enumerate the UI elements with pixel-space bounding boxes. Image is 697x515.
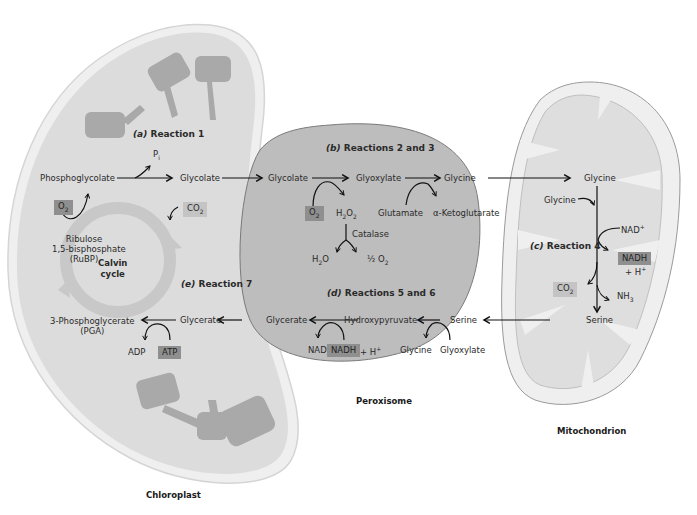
- mitochondrion-label: Mitochondrion: [557, 426, 626, 436]
- nh3-label: NH3: [617, 292, 634, 303]
- glyoxylate-label-2: Glyoxylate: [440, 346, 485, 355]
- glycerate-label-chloroplast: Glycerate: [180, 316, 221, 325]
- atp-badge: ATP: [158, 346, 181, 359]
- co2-badge-chloroplast: CO2: [183, 202, 207, 217]
- ketoglutarate-label: α-Ketoglutarate: [433, 209, 500, 218]
- glycine-label-peroxisome: Glycine: [444, 174, 476, 183]
- h-plus-label-mito: + H+: [625, 266, 646, 276]
- calvin-cycle-label: Calvincycle: [98, 258, 127, 279]
- glycine-label-mito-top: Glycine: [584, 174, 616, 183]
- nadh-badge-peroxisome: NADH: [327, 344, 360, 357]
- pi-label: Pi: [153, 150, 160, 161]
- hydroxypyruvate-label: Hydroxypyruvate: [344, 316, 417, 325]
- nad-plus-label: NAD+: [621, 224, 645, 234]
- glycolate-label-peroxisome: Glycolate: [268, 174, 308, 183]
- serine-label-mito: Serine: [586, 316, 613, 325]
- h2o-label: H2O: [312, 255, 329, 266]
- glyoxylate-label: Glyoxylate: [356, 174, 401, 183]
- reaction-d-title: (d) Reactions 5 and 6: [327, 289, 435, 298]
- pga-label: 3-Phosphoglycerate(PGA): [50, 316, 135, 336]
- reaction-c-title: (c) Reaction 4: [530, 242, 601, 251]
- h-plus-label-peroxisome: + H+: [360, 346, 381, 356]
- glycerate-label-peroxisome: Glycerate: [266, 316, 307, 325]
- chloroplast-label: Chloroplast: [146, 490, 201, 500]
- reaction-a-title: (a) Reaction 1: [133, 130, 204, 139]
- h2o2-label: H2O2: [336, 209, 357, 220]
- peroxisome-label: Peroxisome: [356, 396, 412, 406]
- reaction-b-title: (b) Reactions 2 and 3: [326, 144, 434, 153]
- glycine-label-mito-in: Glycine: [544, 196, 576, 205]
- adp-label: ADP: [128, 348, 146, 357]
- glycolate-label-chloroplast: Glycolate: [180, 174, 220, 183]
- o2-badge-peroxisome: O2: [305, 206, 324, 221]
- phosphoglycolate-label: Phosphoglycolate: [40, 174, 115, 183]
- catalase-label: Catalase: [352, 230, 389, 239]
- glycine-label-peroxisome-2: Glycine: [400, 346, 432, 355]
- nad-label: NAD: [308, 346, 327, 355]
- nadh-badge-mito: NADH: [618, 252, 651, 265]
- reaction-e-title: (e) Reaction 7: [181, 280, 252, 289]
- half-o2-label: ½ O2: [367, 255, 388, 266]
- o2-badge-chloroplast: O2: [54, 200, 73, 215]
- serine-label-peroxisome: Serine: [450, 316, 477, 325]
- glutamate-label: Glutamate: [378, 209, 423, 218]
- co2-badge-mito: CO2: [553, 282, 577, 297]
